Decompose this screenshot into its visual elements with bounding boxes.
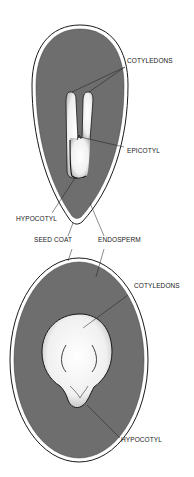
label-top-hypocotyl: HYPOCOTYL <box>16 215 57 222</box>
label-bottom-hypocotyl: HYPOCOTYL <box>121 436 162 443</box>
top-endosperm <box>36 29 124 218</box>
bottom-seed <box>10 249 148 462</box>
seed-diagram <box>0 0 194 477</box>
label-bottom-cotyledons: COTYLEDONS <box>134 282 180 289</box>
label-top-cotyledons: COTYLEDONS <box>127 57 173 64</box>
top-seed <box>32 25 128 236</box>
label-seed-coat: SEED COAT <box>34 236 72 243</box>
label-top-epicotyl: EPICOTYL <box>127 147 160 154</box>
label-endosperm: ENDOSPERM <box>98 236 141 243</box>
